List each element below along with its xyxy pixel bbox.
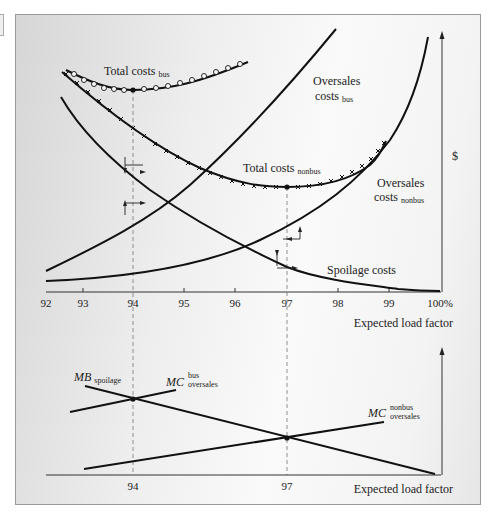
label-oversales-bus-2: costsbus (315, 89, 353, 104)
total-costs-bus-markers (72, 62, 243, 93)
top-y-axis-arrow-icon (440, 31, 445, 39)
tick-93: 93 (78, 297, 90, 309)
label-spoilage-costs: Spoilage costs (327, 263, 396, 277)
chart-canvas: 92 93 94 95 96 97 98 99 100% Expected lo… (0, 0, 492, 525)
label-oversales-bus-1: Oversales (313, 74, 361, 88)
tick-95: 95 (179, 297, 191, 309)
total-nonbus-min-point (284, 184, 289, 189)
label-oversales-nonbus-2: costsnonbus (374, 190, 424, 205)
tick-92: 92 (41, 297, 52, 309)
label-mc-bus-sub: oversales (188, 380, 218, 389)
label-mc-nonbus-sub: oversales (390, 412, 420, 421)
tick-100: 100% (427, 297, 453, 309)
bottom-chart: 94 97 Expected load factor MBspoilage MC… (46, 347, 453, 496)
intersection-94 (130, 396, 135, 401)
mc-nonbus-oversales-line (84, 422, 384, 469)
top-x-axis-label: Expected load factor (354, 316, 453, 330)
oversales-bus-curve (46, 29, 336, 271)
bottom-tick-97: 97 (282, 480, 294, 492)
top-x-ticks (83, 288, 389, 292)
mc-bus-oversales-line (70, 390, 176, 412)
tick-98: 98 (333, 297, 345, 309)
top-y-axis-label: $ (452, 149, 458, 163)
label-mb-spoilage: MBspoilage (73, 370, 121, 385)
label-mc-bus-sup: bus (188, 371, 199, 380)
label-total-costs-bus: Total costsbus (104, 64, 170, 79)
shift-arrowheads-icon (123, 168, 302, 270)
total-bus-min-point (130, 87, 135, 92)
label-total-costs-nonbus: Total costsnonbus (243, 161, 321, 176)
top-x-tick-labels: 92 93 94 95 96 97 98 99 100% (41, 297, 453, 309)
bottom-tick-94: 94 (128, 480, 140, 492)
tick-97: 97 (282, 297, 294, 309)
tick-99: 99 (384, 297, 396, 309)
intersection-97 (284, 435, 289, 440)
bottom-x-axis-label: Expected load factor (354, 482, 453, 496)
bottom-y-axis-arrow-icon (440, 347, 445, 355)
label-mc-bus: MC (165, 375, 185, 389)
label-mc-nonbus: MC (367, 406, 387, 420)
label-mc-nonbus-sup: nonbus (390, 403, 413, 412)
label-oversales-nonbus-1: Oversales (377, 176, 425, 190)
tick-96: 96 (230, 297, 242, 309)
tick-94: 94 (128, 297, 140, 309)
